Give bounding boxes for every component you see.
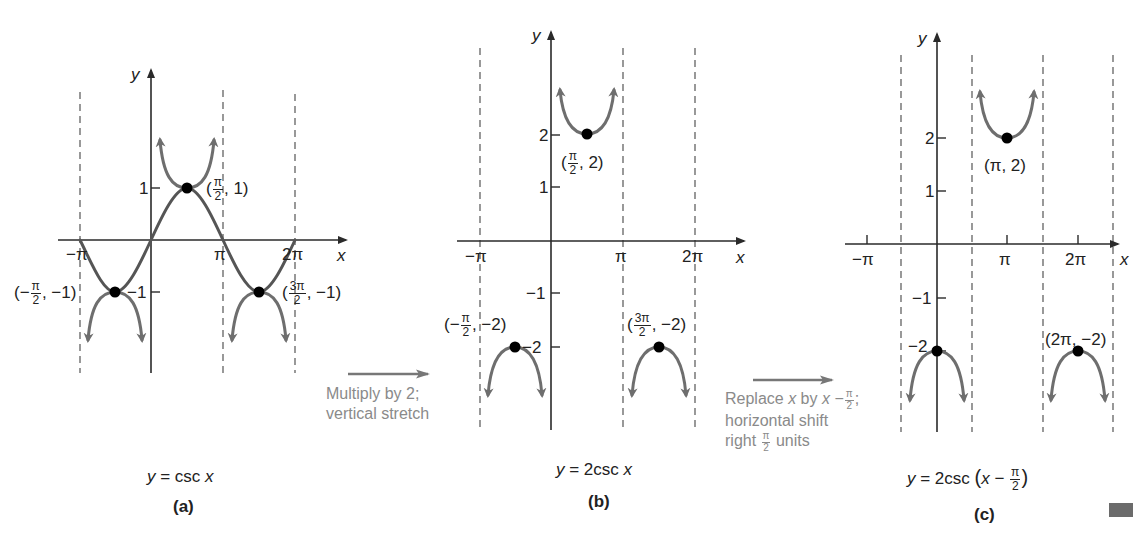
- panel-c-caption: y = 2csc (x − π2): [907, 466, 1028, 493]
- y-tick-label: 2: [539, 127, 548, 144]
- key-point: [110, 287, 121, 298]
- panel-b-caption: y = 2csc x: [556, 460, 632, 480]
- y-tick-label: 1: [925, 183, 934, 200]
- csc-branch: [88, 292, 115, 340]
- panel-c-graph: [845, 34, 1118, 432]
- y-axis-label: y: [918, 30, 927, 47]
- y-tick-label: −2: [522, 339, 541, 356]
- x-tick-label: −π: [465, 248, 487, 265]
- csc-branch: [160, 140, 187, 188]
- y-tick-label: −1: [526, 285, 545, 302]
- y-axis-label: y: [131, 66, 140, 83]
- key-point: [1002, 133, 1013, 144]
- y-axis-label: y: [532, 27, 541, 44]
- x-tick-label: 2π: [282, 246, 303, 263]
- point-label: (−π2, −2): [444, 312, 506, 338]
- y-tick-label: 1: [139, 180, 148, 197]
- x-axis-label: x: [337, 247, 346, 264]
- point-label: (π2, 1): [206, 176, 249, 202]
- csc-branch: [632, 347, 659, 395]
- y-tick-label: −1: [912, 290, 931, 307]
- transform-note-2: Replace x by x −π2; horizontal shift rig…: [725, 389, 859, 453]
- x-axis-label: x: [1120, 251, 1129, 268]
- x-tick-label: 2π: [1065, 251, 1086, 268]
- key-point: [932, 346, 943, 357]
- point-label: (3π2, −1): [282, 280, 341, 306]
- csc-branch: [910, 351, 937, 400]
- point-label: (π, 2): [984, 157, 1026, 174]
- end-of-example-marker: [1109, 503, 1133, 517]
- x-tick-label: π: [214, 246, 226, 263]
- panel-a-caption: y = csc x: [147, 467, 214, 487]
- csc-branch: [232, 292, 259, 340]
- csc-branch: [488, 347, 515, 395]
- panel-b-graph: [457, 32, 744, 430]
- csc-branch: [659, 347, 686, 395]
- panel-b-label: (b): [588, 492, 610, 512]
- y-tick-label: −2: [908, 338, 927, 355]
- panel-a-label: (a): [173, 497, 194, 517]
- y-tick-label: −1: [127, 284, 146, 301]
- point-label: (π2, 2): [561, 150, 604, 176]
- csc-branch: [1007, 92, 1034, 138]
- csc-branch: [1078, 351, 1105, 400]
- x-tick-label: 2π: [682, 248, 703, 265]
- key-point: [654, 342, 665, 353]
- key-point: [582, 129, 593, 140]
- x-tick-label: π: [615, 248, 627, 265]
- key-point: [254, 287, 265, 298]
- point-label: (2π, −2): [1045, 331, 1106, 348]
- transform-note-1: Multiply by 2; vertical stretch: [326, 384, 429, 424]
- csc-branch: [1051, 351, 1078, 400]
- y-tick-label: 2: [925, 130, 934, 147]
- x-tick-label: −π: [852, 251, 874, 268]
- point-label: (3π2, −2): [627, 312, 686, 338]
- csc-branch: [980, 92, 1007, 138]
- csc-branch: [937, 351, 964, 400]
- csc-branch: [587, 90, 614, 134]
- x-axis-label: x: [736, 249, 745, 266]
- x-tick-label: π: [999, 251, 1011, 268]
- key-point: [182, 183, 193, 194]
- panel-a-graph: [58, 70, 346, 373]
- y-tick-label: 1: [539, 179, 548, 196]
- x-tick-label: −π: [66, 246, 88, 263]
- csc-branch: [560, 90, 587, 134]
- key-point: [510, 342, 521, 353]
- panel-c-label: (c): [974, 505, 995, 525]
- figure-canvas: [0, 0, 1135, 535]
- point-label: (−π2, −1): [14, 280, 76, 306]
